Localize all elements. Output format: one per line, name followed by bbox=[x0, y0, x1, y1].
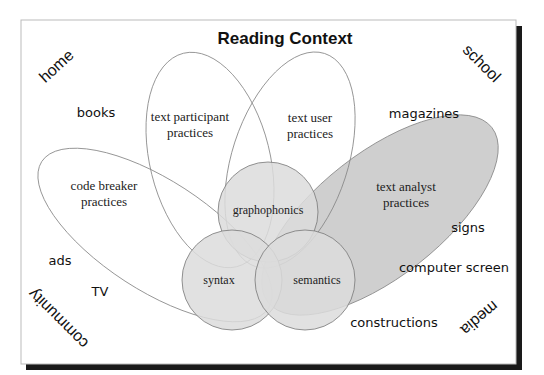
text-user-label-1: text user bbox=[288, 110, 333, 125]
diagram-title: Reading Context bbox=[217, 29, 352, 48]
text-computer-screen: computer screen bbox=[399, 260, 509, 275]
text-tv: TV bbox=[91, 284, 109, 299]
text-analyst-label-1: text analyst bbox=[376, 179, 436, 194]
text-ads: ads bbox=[49, 253, 72, 268]
text-books: books bbox=[77, 105, 116, 120]
text-constructions: constructions bbox=[350, 315, 438, 330]
code-breaker-label-1: code breaker bbox=[71, 178, 138, 193]
code-breaker-label-2: practices bbox=[81, 194, 127, 209]
text-analyst-label-2: practices bbox=[383, 195, 429, 210]
semantics-label: semantics bbox=[293, 273, 341, 287]
text-participant-label-1: text participant bbox=[151, 109, 230, 124]
text-user-label-2: practices bbox=[287, 126, 333, 141]
text-participant-label-2: practices bbox=[167, 125, 213, 140]
reading-context-diagram: Reading Context home school community me… bbox=[0, 0, 544, 375]
text-signs: signs bbox=[451, 220, 485, 235]
syntax-label: syntax bbox=[203, 273, 234, 287]
text-magazines: magazines bbox=[389, 106, 460, 121]
graphophonics-label: graphophonics bbox=[233, 203, 304, 217]
